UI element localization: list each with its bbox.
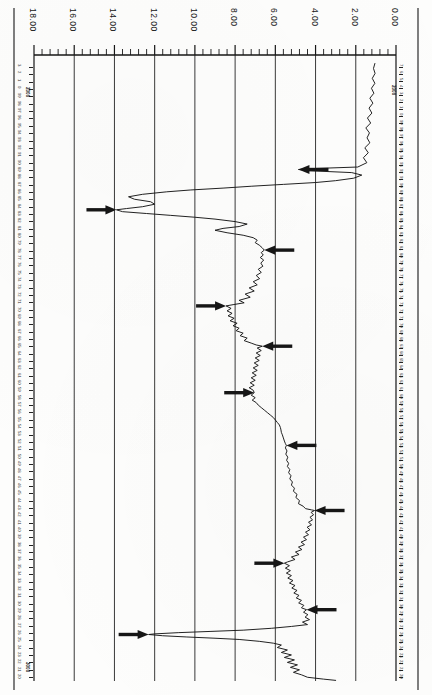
arrow-1 xyxy=(298,165,328,174)
arrow-head xyxy=(215,301,226,310)
arrow-4 xyxy=(196,301,226,310)
trace-path xyxy=(116,63,375,680)
arrow-head xyxy=(286,441,297,450)
arrow-2 xyxy=(86,205,116,214)
arrow-7 xyxy=(286,441,316,450)
plot-canvas xyxy=(0,0,432,695)
figure-page: 18.0016.0014.0012.0010.008.006.004.002.0… xyxy=(0,0,432,695)
arrow-head xyxy=(264,246,275,255)
arrow-8 xyxy=(315,506,345,515)
grid-lines xyxy=(34,55,396,681)
arrow-3 xyxy=(264,246,294,255)
arrow-head xyxy=(315,506,326,515)
axis-ticks xyxy=(34,45,396,55)
arrow-9 xyxy=(254,559,284,568)
annotation-arrows xyxy=(86,165,344,639)
arrow-5 xyxy=(262,342,292,351)
arrow-head xyxy=(262,342,273,351)
arrow-head xyxy=(273,559,284,568)
arrow-head xyxy=(298,165,309,174)
arrow-6 xyxy=(224,388,254,397)
arrow-head xyxy=(138,630,149,639)
arrow-11 xyxy=(119,630,149,639)
arrow-head xyxy=(307,605,318,614)
arrow-10 xyxy=(307,605,337,614)
log-trace xyxy=(116,63,375,680)
